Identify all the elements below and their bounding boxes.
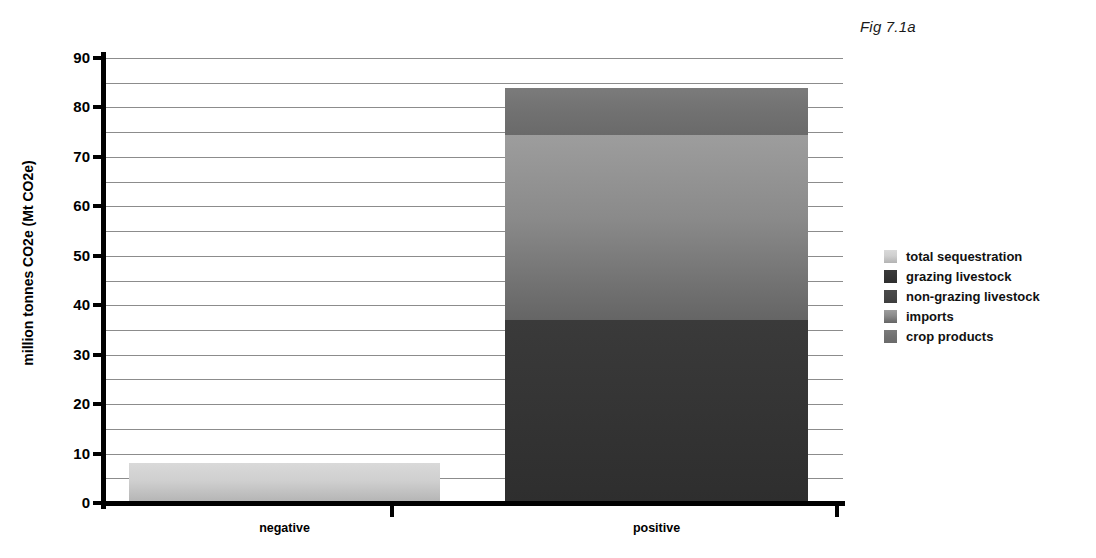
bar-positive[interactable] — [505, 88, 808, 503]
y-axis-tick-label: 10 — [73, 446, 90, 461]
legend-swatch-total-sequestration — [884, 250, 897, 263]
x-axis-tick — [835, 506, 839, 517]
y-axis-tick-label: 80 — [73, 99, 90, 114]
legend-label: grazing livestock — [906, 270, 1011, 283]
legend-label: total sequestration — [906, 250, 1022, 263]
y-axis-tick — [93, 254, 102, 258]
gridline — [105, 83, 843, 84]
gridline — [105, 58, 843, 59]
x-axis-line — [101, 501, 845, 506]
y-axis-tick — [93, 303, 102, 307]
y-axis-tick-label: 90 — [73, 50, 90, 65]
y-axis-tick — [93, 56, 102, 60]
legend-swatch-imports — [884, 310, 897, 323]
chart-legend: total sequestrationgrazing livestocknon-… — [884, 247, 1090, 347]
legend-item-crop-products[interactable]: crop products — [884, 327, 1090, 346]
y-axis-tick — [93, 452, 102, 456]
x-axis-tick — [390, 506, 394, 517]
bar-segment-total-sequestration[interactable] — [129, 463, 440, 504]
legend-item-grazing-livestock[interactable]: grazing livestock — [884, 267, 1090, 286]
legend-item-total-sequestration[interactable]: total sequestration — [884, 247, 1090, 266]
x-axis-label-positive: positive — [633, 521, 680, 535]
y-axis-tick-label: 0 — [82, 495, 90, 510]
y-axis-tick — [93, 204, 102, 208]
y-axis-line — [101, 52, 106, 509]
y-axis-tick-label: 60 — [73, 198, 90, 213]
legend-label: imports — [906, 310, 954, 323]
y-axis-tick — [93, 402, 102, 406]
y-axis-tick-label: 30 — [73, 347, 90, 362]
y-axis-tick-labels: 0102030405060708090 — [50, 0, 90, 558]
legend-label: crop products — [906, 330, 993, 343]
legend-item-imports[interactable]: imports — [884, 307, 1090, 326]
legend-label: non-grazing livestock — [906, 290, 1040, 303]
legend-swatch-grazing-livestock — [884, 270, 897, 283]
bar-segment-imports[interactable] — [505, 135, 808, 320]
x-axis-label-negative: negative — [259, 521, 310, 535]
y-axis-tick-label: 50 — [73, 248, 90, 263]
y-axis-tick-label: 20 — [73, 396, 90, 411]
plot-area — [105, 58, 843, 503]
legend-swatch-non-grazing-livestock — [884, 290, 897, 303]
y-axis-tick — [93, 155, 102, 159]
bar-negative[interactable] — [129, 463, 440, 504]
y-axis-tick-label: 70 — [73, 149, 90, 164]
y-axis-tick-label: 40 — [73, 297, 90, 312]
bar-segment-grazing-livestock[interactable] — [505, 320, 808, 503]
legend-swatch-crop-products — [884, 330, 897, 343]
bar-segment-crop-products[interactable] — [505, 88, 808, 135]
y-axis-title: million tonnes CO2e (Mt CO2e) — [20, 113, 36, 413]
y-axis-tick — [93, 501, 102, 505]
legend-item-non-grazing-livestock[interactable]: non-grazing livestock — [884, 287, 1090, 306]
y-axis-tick — [93, 105, 102, 109]
y-axis-tick — [93, 353, 102, 357]
